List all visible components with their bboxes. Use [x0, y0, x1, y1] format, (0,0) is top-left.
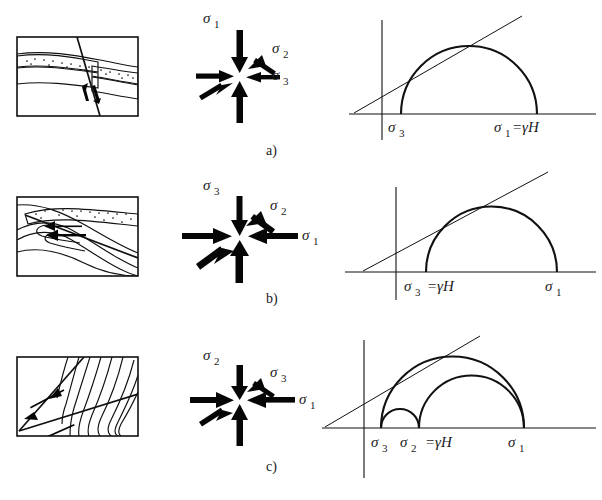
row-c: σ 2 σ 3 σ 1 σ 3 — [17, 336, 596, 478]
sigma-subscript: 3 — [382, 442, 388, 454]
gamma-h-expression: =γH — [425, 434, 453, 450]
mohr-label-left: σ 3 — [388, 119, 405, 139]
sigma-subscript: 1 — [556, 286, 562, 298]
sigma-symbol: σ — [203, 177, 211, 193]
stress-arrow-star-a: σ 1 σ 2 σ 3 — [196, 10, 289, 123]
normal-fault-block-diagram — [17, 37, 138, 116]
sigma-symbol: σ — [545, 278, 553, 294]
sigma-symbol: σ — [508, 434, 516, 450]
figure-root: σ 1 σ 2 σ 3 σ 3 — [0, 0, 602, 500]
sigma-subscript: 3 — [399, 127, 405, 139]
sigma-symbol: σ — [203, 10, 211, 26]
stress-label-top: σ 2 — [203, 347, 220, 367]
arrow-lower-left-diagonal — [196, 246, 234, 269]
mohr-label-right: σ 1 =γH — [494, 119, 540, 139]
mohr-circle-s3-s1 — [401, 46, 537, 114]
sigma-symbol: σ — [302, 227, 310, 243]
stress-label-diagonal: σ 3 — [270, 364, 287, 384]
arrow-top — [231, 30, 248, 73]
sigma-subscript: 2 — [283, 48, 289, 60]
stress-label-top: σ 1 — [203, 10, 220, 30]
arrow-lower-left-diagonal — [199, 83, 233, 100]
sigma-symbol: σ — [371, 434, 379, 450]
stress-label-right: σ 3 — [272, 67, 289, 87]
row-b: σ 3 σ 2 σ 1 σ 3 =γH σ — [17, 172, 596, 307]
gamma-h-expression: =γH — [512, 119, 540, 135]
sigma-subscript: 1 — [519, 442, 525, 454]
sigma-symbol: σ — [404, 278, 412, 294]
row-caption-a: a) — [266, 143, 277, 159]
sigma-symbol: σ — [400, 434, 408, 450]
arrow-lower-left-diagonal — [199, 408, 233, 427]
arrow-top — [231, 365, 248, 400]
failure-envelope — [325, 336, 480, 427]
row-caption-b: b) — [266, 291, 278, 307]
gamma-h-expression: =γH — [427, 278, 455, 294]
failure-envelope — [363, 172, 548, 271]
sigma-symbol: σ — [494, 119, 502, 135]
mohr-circle-s3-s1 — [426, 207, 557, 273]
sigma-subscript: 3 — [283, 75, 289, 87]
arrow-bottom — [231, 404, 248, 446]
mohr-label-s2: σ 2 =γH — [400, 434, 453, 454]
sigma-subscript: 3 — [281, 372, 287, 384]
arrow-bottom — [231, 81, 248, 123]
strike-slip-fault-block-diagram — [17, 357, 138, 443]
failure-envelope — [354, 16, 522, 113]
mohr-label-left: σ 3 =γH — [404, 278, 455, 298]
arrow-left — [182, 228, 232, 244]
mohr-diagram-b: σ 3 =γH σ 1 — [345, 172, 596, 300]
sigma-symbol: σ — [270, 197, 278, 213]
sigma-subscript: 1 — [214, 18, 220, 30]
sigma-subscript: 3 — [214, 185, 220, 197]
sigma-symbol: σ — [299, 391, 307, 407]
arrow-left — [190, 392, 234, 408]
mohr-circle-s3-s2 — [381, 409, 419, 428]
sigma-subscript: 1 — [505, 127, 511, 139]
sigma-subscript: 1 — [313, 235, 319, 247]
stress-arrow-star-b: σ 3 σ 2 σ 1 — [182, 177, 319, 283]
arrow-top — [231, 196, 248, 236]
stress-label-diagonal: σ 2 — [272, 40, 289, 60]
sigma-symbol: σ — [203, 347, 211, 363]
stress-arrow-star-c: σ 2 σ 3 σ 1 — [190, 347, 316, 446]
mohr-label-s1: σ 1 — [508, 434, 525, 454]
stress-label-right: σ 1 — [299, 391, 316, 411]
stress-label-right: σ 1 — [302, 227, 319, 247]
sigma-subscript: 3 — [415, 286, 421, 298]
block-frame — [17, 37, 138, 116]
figure-svg: σ 1 σ 2 σ 3 σ 3 — [0, 0, 602, 500]
sigma-symbol: σ — [272, 40, 280, 56]
mohr-diagram-c: σ 3 σ 2 =γH σ 1 — [322, 336, 596, 478]
arrow-bottom — [230, 240, 249, 283]
sigma-symbol: σ — [270, 364, 278, 380]
arrow-upper-right-diagonal — [246, 211, 275, 234]
sigma-subscript: 1 — [310, 399, 316, 411]
stress-label-diagonal: σ 2 — [270, 197, 287, 217]
sigma-subscript: 2 — [214, 355, 220, 367]
mohr-circle-s3-s1 — [381, 357, 524, 429]
thrust-fault-block-diagram — [17, 197, 138, 276]
sigma-subscript: 2 — [411, 442, 417, 454]
row-caption-c: c) — [266, 459, 277, 475]
sigma-subscript: 2 — [281, 205, 287, 217]
arrow-left — [196, 70, 234, 83]
mohr-label-right: σ 1 — [545, 278, 562, 298]
sigma-symbol: σ — [388, 119, 396, 135]
mohr-label-s3: σ 3 — [371, 434, 388, 454]
stress-label-top: σ 3 — [203, 177, 220, 197]
row-a: σ 1 σ 2 σ 3 σ 3 — [17, 10, 596, 159]
mohr-diagram-a: σ 3 σ 1 =γH — [349, 16, 596, 140]
sigma-symbol: σ — [272, 67, 280, 83]
